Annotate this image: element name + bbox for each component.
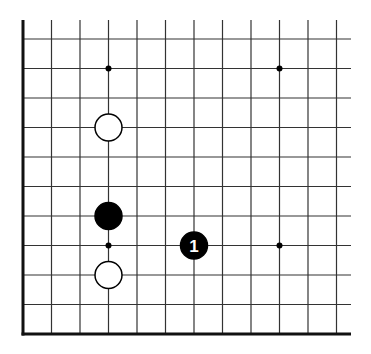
star-point bbox=[277, 243, 283, 249]
white-stone bbox=[95, 262, 122, 289]
star-point bbox=[106, 66, 112, 72]
move-number-label: 1 bbox=[189, 237, 198, 256]
white-stone bbox=[95, 114, 122, 141]
go-board: 1 bbox=[0, 0, 371, 354]
star-point bbox=[277, 66, 283, 72]
stone-circle bbox=[95, 203, 122, 230]
black-stone: 1 bbox=[181, 232, 208, 259]
stones-layer: 1 bbox=[95, 114, 208, 289]
star-point bbox=[106, 243, 112, 249]
stone-circle bbox=[95, 262, 122, 289]
stone-circle bbox=[95, 114, 122, 141]
board-grid bbox=[22, 20, 352, 336]
black-stone bbox=[95, 203, 122, 230]
